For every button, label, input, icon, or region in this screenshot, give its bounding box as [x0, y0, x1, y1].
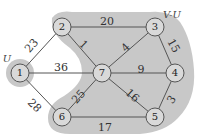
- node-7: 7: [93, 64, 111, 82]
- node-6: 6: [53, 108, 71, 126]
- edge-weight-label: 9: [138, 63, 145, 76]
- node-2: 2: [53, 18, 71, 36]
- edge-weight-label: 20: [100, 15, 114, 28]
- node-label: 4: [172, 67, 178, 78]
- node-label: 1: [17, 67, 23, 78]
- node-label: 2: [59, 21, 65, 32]
- set-label-u: U: [3, 53, 12, 64]
- set-label-v-u: V-U: [163, 9, 182, 20]
- node-3: 3: [146, 18, 164, 36]
- node-4: 4: [166, 64, 184, 82]
- graph-diagram: 23362820141591625317 1234567 UV-U: [0, 0, 205, 139]
- node-label: 3: [152, 21, 158, 32]
- node-label: 7: [99, 67, 105, 78]
- node-label: 6: [59, 111, 65, 122]
- edge-weight-label: 36: [54, 61, 68, 74]
- node-1: 1: [11, 64, 29, 82]
- node-5: 5: [146, 108, 164, 126]
- edge-weight-label: 17: [98, 121, 112, 134]
- edge-weight-label: 28: [25, 96, 44, 115]
- node-label: 5: [152, 111, 158, 122]
